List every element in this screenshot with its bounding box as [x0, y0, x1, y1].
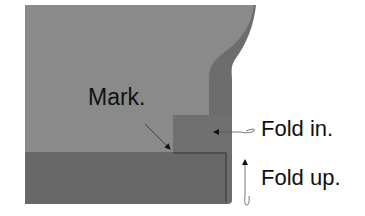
bottom-hem-band [25, 152, 227, 204]
fold-up-label: Fold up. [261, 167, 341, 189]
fold-in-step [173, 115, 232, 153]
fold-up-arrow [245, 160, 250, 205]
mark-label: Mark. [88, 86, 146, 109]
fold-in-label: Fold in. [261, 118, 333, 140]
